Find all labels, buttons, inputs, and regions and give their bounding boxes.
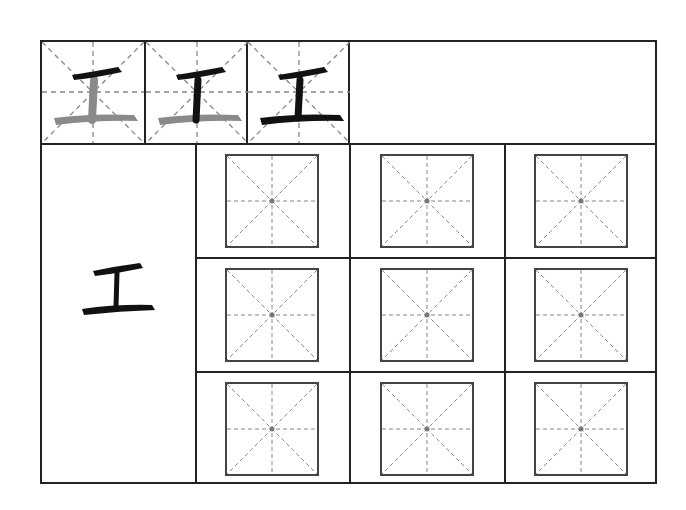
mi-grid-guide-icon bbox=[382, 270, 472, 360]
mi-grid-guide-icon bbox=[536, 270, 626, 360]
model-character-glyph bbox=[42, 145, 195, 482]
row-divider bbox=[195, 371, 655, 373]
stroke-order-step-2 bbox=[146, 42, 248, 143]
practice-box-r3c3[interactable] bbox=[534, 382, 628, 476]
practice-box-r3c1[interactable] bbox=[225, 382, 319, 476]
practice-box-r2c3[interactable] bbox=[534, 268, 628, 362]
row-divider bbox=[195, 257, 655, 259]
stroke-step-3-glyph bbox=[248, 42, 350, 143]
mi-grid-guide-icon bbox=[382, 384, 472, 474]
column-divider bbox=[349, 143, 351, 482]
practice-box-r2c2[interactable] bbox=[380, 268, 474, 362]
mi-grid-guide-icon bbox=[227, 270, 317, 360]
practice-box-r2c1[interactable] bbox=[225, 268, 319, 362]
column-divider bbox=[195, 143, 197, 482]
character-worksheet bbox=[40, 40, 657, 484]
column-divider bbox=[504, 143, 506, 482]
blank-header-cell bbox=[350, 42, 655, 143]
mi-grid-guide-icon bbox=[536, 384, 626, 474]
stroke-step-1-glyph bbox=[42, 42, 144, 143]
stroke-order-step-1 bbox=[42, 42, 144, 143]
practice-box-r1c2[interactable] bbox=[380, 154, 474, 248]
mi-grid-guide-icon bbox=[227, 384, 317, 474]
practice-box-r3c2[interactable] bbox=[380, 382, 474, 476]
practice-box-r1c3[interactable] bbox=[534, 154, 628, 248]
stroke-order-step-3 bbox=[248, 42, 350, 143]
mi-grid-guide-icon bbox=[227, 156, 317, 246]
mi-grid-guide-icon bbox=[382, 156, 472, 246]
practice-box-r1c1[interactable] bbox=[225, 154, 319, 248]
model-character-cell bbox=[42, 145, 195, 482]
stroke-step-2-glyph bbox=[146, 42, 248, 143]
mi-grid-guide-icon bbox=[536, 156, 626, 246]
